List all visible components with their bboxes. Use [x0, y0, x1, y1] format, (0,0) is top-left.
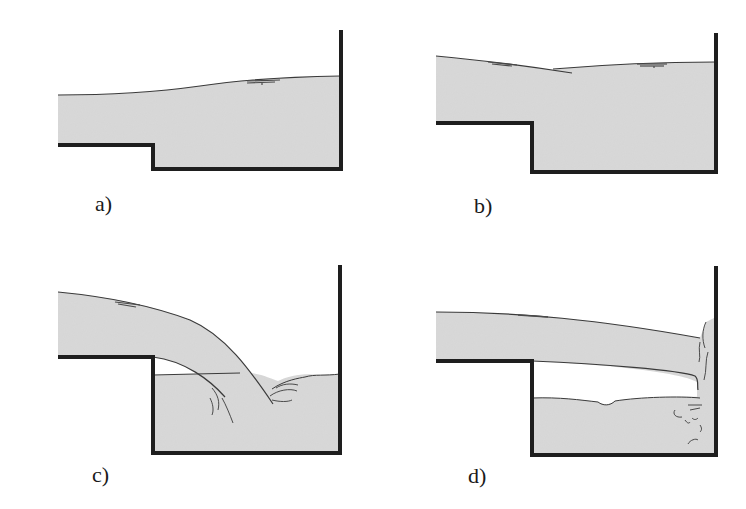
- panel-a: [58, 30, 341, 169]
- figure-canvas: [0, 0, 746, 509]
- panel-d: [436, 266, 716, 455]
- hydraulic-drop-figure: a) b) c) d): [0, 0, 746, 509]
- panel-c: [58, 265, 340, 453]
- water-body: [436, 56, 715, 172]
- panel-a-label: a): [95, 191, 112, 217]
- impinging-jet: [436, 312, 714, 400]
- water-body: [58, 76, 340, 169]
- panel-b: [436, 33, 716, 172]
- panel-c-label: c): [92, 462, 109, 488]
- tailwater-pool: [532, 397, 715, 455]
- panel-b-label: b): [474, 193, 492, 219]
- panel-d-label: d): [468, 463, 486, 489]
